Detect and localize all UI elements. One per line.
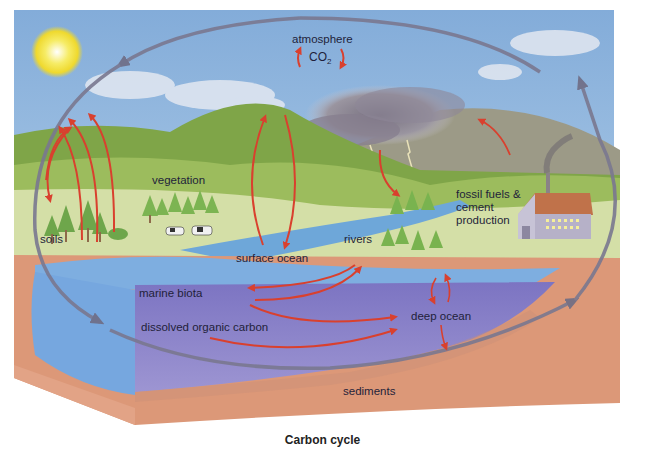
label-sediments: sediments <box>343 385 395 398</box>
label-rivers: rivers <box>344 233 372 246</box>
fossil-fuels-line2: cement <box>456 201 526 214</box>
carbon-cycle-diagram <box>0 0 645 461</box>
label-fossil-fuels: fossil fuels & cement production <box>456 188 526 227</box>
label-vegetation: vegetation <box>152 174 205 187</box>
label-surface-ocean: surface ocean <box>236 252 308 265</box>
diagram-caption: Carbon cycle <box>0 433 645 447</box>
label-marine-biota: marine biota <box>139 287 202 300</box>
label-dissolved-organic-carbon: dissolved organic carbon <box>141 321 268 334</box>
sun-icon <box>31 26 83 78</box>
label-co2: CO2 <box>309 50 331 66</box>
label-deep-ocean: deep ocean <box>411 310 471 323</box>
fossil-fuels-line1: fossil fuels & <box>456 188 526 201</box>
label-soils: soils <box>40 233 63 246</box>
co2-text: CO <box>309 50 327 64</box>
co2-subscript: 2 <box>327 57 331 66</box>
fossil-fuels-line3: production <box>456 214 526 227</box>
label-atmosphere: atmosphere <box>292 33 353 46</box>
